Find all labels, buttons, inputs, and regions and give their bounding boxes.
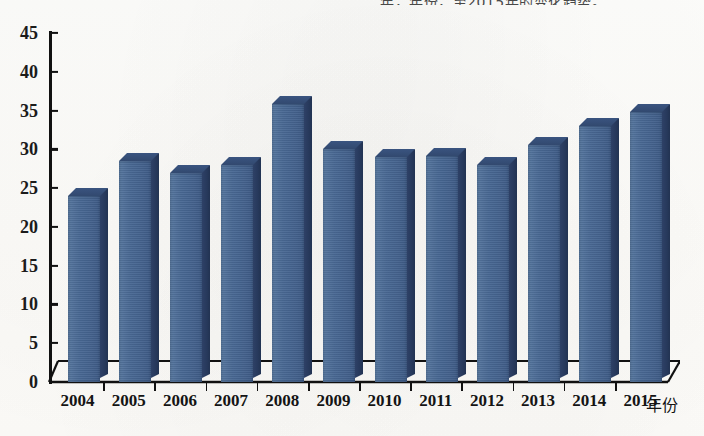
- x-axis-tick: [359, 382, 361, 391]
- bar-2007[interactable]: [221, 165, 253, 382]
- x-axis-tick: [206, 382, 208, 391]
- bar-front-face: [477, 165, 509, 382]
- x-axis-tick-label: 2004: [61, 391, 95, 411]
- bar-side-face: [202, 165, 210, 378]
- y-axis-tick: [49, 226, 58, 228]
- bar-front-face: [528, 145, 560, 382]
- bar-front-face: [579, 126, 611, 382]
- bar-2004[interactable]: [68, 196, 100, 382]
- bar-front-face: [323, 149, 355, 382]
- bar-2015[interactable]: [630, 112, 662, 382]
- y-axis-tick: [49, 265, 58, 267]
- y-axis-tick: [49, 148, 58, 150]
- y-axis-tick: [49, 32, 58, 34]
- bar-front-face: [119, 161, 151, 382]
- bar-side-face: [253, 157, 261, 378]
- bar-2010[interactable]: [375, 157, 407, 382]
- x-axis-tick-label: 2006: [163, 391, 197, 411]
- bar-front-face: [68, 196, 100, 382]
- bar-2014[interactable]: [579, 126, 611, 382]
- y-axis-tick: [49, 187, 58, 189]
- x-axis-title: 年份: [646, 392, 678, 416]
- bar-front-face: [272, 104, 304, 382]
- x-axis-tick-label: 2014: [572, 391, 606, 411]
- bar-side-face: [100, 188, 108, 378]
- x-axis-tick-label: 2009: [316, 391, 350, 411]
- bar-2009[interactable]: [323, 149, 355, 382]
- x-axis-tick: [410, 382, 412, 391]
- x-axis-tick-label: 2013: [521, 391, 555, 411]
- bar-2005[interactable]: [119, 161, 151, 382]
- x-axis-tick-label: 2008: [265, 391, 299, 411]
- x-axis-tick: [461, 382, 463, 391]
- bar-front-face: [630, 112, 662, 382]
- bar-chart: 051015202530354045 200420052006200720082…: [0, 0, 704, 436]
- bar-2008[interactable]: [272, 104, 304, 382]
- x-axis-tick-label: 2010: [368, 391, 402, 411]
- bar-2006[interactable]: [170, 173, 202, 382]
- bar-side-face: [662, 104, 670, 378]
- bar-front-face: [375, 157, 407, 382]
- bar-side-face: [560, 138, 568, 378]
- y-axis-tick: [49, 303, 58, 305]
- bar-2011[interactable]: [426, 156, 458, 382]
- bar-side-face: [509, 157, 517, 378]
- bar-front-face: [426, 156, 458, 382]
- x-axis-tick: [564, 382, 566, 391]
- x-axis-tick: [103, 382, 105, 391]
- y-axis-tick: [49, 342, 58, 344]
- x-axis-tick: [513, 382, 515, 391]
- bar-side-face: [611, 118, 619, 378]
- y-axis-tick: [49, 109, 58, 111]
- bar-side-face: [407, 149, 415, 378]
- x-axis-tick: [308, 382, 310, 391]
- bar-side-face: [458, 148, 466, 378]
- bar-front-face: [221, 165, 253, 382]
- bar-side-face: [355, 141, 363, 378]
- bar-front-face: [170, 173, 202, 382]
- x-axis-tick-label: 2005: [112, 391, 146, 411]
- bar-2012[interactable]: [477, 165, 509, 382]
- x-axis-tick-label: 2007: [214, 391, 248, 411]
- bar-side-face: [304, 96, 312, 378]
- bar-side-face: [151, 153, 159, 378]
- x-axis-tick: [615, 382, 617, 391]
- x-axis-tick: [154, 382, 156, 391]
- x-axis-tick-label: 2012: [470, 391, 504, 411]
- bar-series: [0, 0, 704, 436]
- bar-2013[interactable]: [528, 145, 560, 382]
- y-axis-tick: [49, 71, 58, 73]
- x-axis-tick-label: 2011: [419, 391, 452, 411]
- x-axis-tick: [257, 382, 259, 391]
